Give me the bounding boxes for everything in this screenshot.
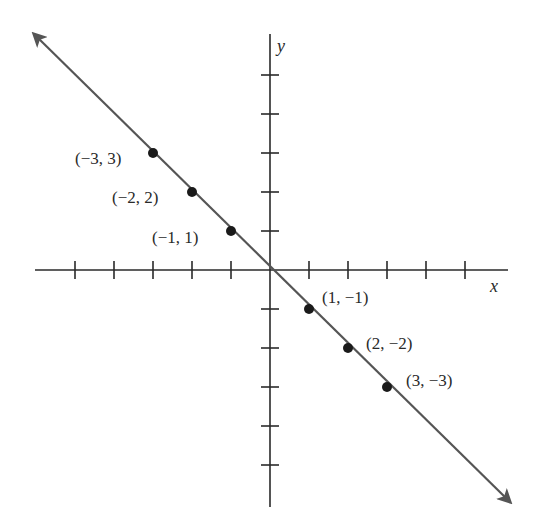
point-label-3-neg3: (3, −3) [406, 371, 452, 390]
x-axis-label: x [489, 276, 498, 296]
chart-canvas: x y (−3, 3) (−2, 2) (−1, 1) (1, −1) (2, … [0, 0, 534, 526]
data-point [226, 226, 236, 236]
point-label-neg3-3: (−3, 3) [75, 149, 121, 168]
data-point [148, 148, 158, 158]
line-y-equals-neg-x [36, 36, 508, 500]
coordinate-plane: x y (−3, 3) (−2, 2) (−1, 1) (1, −1) (2, … [0, 0, 534, 526]
data-point [187, 187, 197, 197]
point-label-2-neg2: (2, −2) [366, 334, 412, 353]
point-label-neg1-1: (−1, 1) [152, 228, 198, 247]
data-point [382, 382, 392, 392]
point-label-1-neg1: (1, −1) [322, 288, 368, 307]
data-point [304, 304, 314, 314]
y-axis-label: y [275, 36, 285, 56]
data-point [343, 343, 353, 353]
point-label-neg2-2: (−2, 2) [112, 188, 158, 207]
